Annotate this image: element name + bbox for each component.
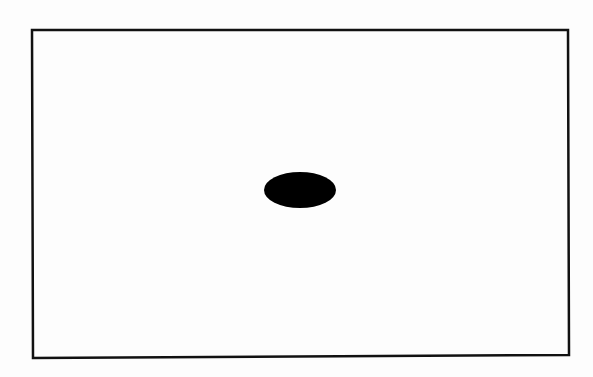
diagram-canvas [0,0,593,377]
black-ellipse [264,172,336,208]
diagram-figure [0,0,593,377]
